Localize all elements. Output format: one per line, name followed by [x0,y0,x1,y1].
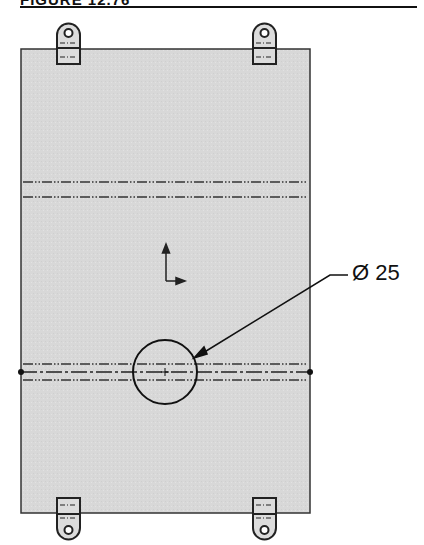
hole-diameter-label: Ø 25 [352,260,400,286]
centerline-endpoint-right [307,369,313,375]
centerline-endpoint-left [18,369,24,375]
